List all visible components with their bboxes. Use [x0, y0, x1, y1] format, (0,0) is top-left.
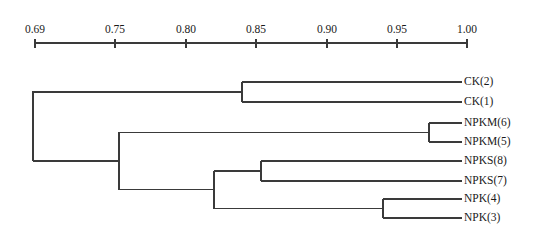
- axis-tick-label: 0.95: [387, 23, 407, 35]
- axis-tick-label: 0.90: [317, 23, 337, 35]
- leaf-label: NPK(3): [464, 211, 501, 224]
- dendrogram-leaves: CK(2)CK(1)NPKM(6)NPKM(5)NPKS(8)NPKS(7)NP…: [242, 75, 511, 224]
- axis-tick-label: 1.00: [457, 23, 477, 35]
- axis-tick-label: 0.75: [105, 23, 125, 35]
- leaf-label: CK(2): [464, 75, 494, 88]
- axis-tick-label: 0.85: [246, 23, 266, 35]
- leaf-label: NPKS(7): [464, 174, 507, 187]
- leaf-label: NPKM(6): [464, 116, 511, 129]
- dendrogram-figure: 0.690.750.800.850.900.951.00 CK(2)CK(1)N…: [0, 0, 539, 245]
- leaf-label: CK(1): [464, 95, 494, 108]
- axis-tick-label: 0.80: [176, 23, 196, 35]
- axis-tick-label: 0.69: [25, 23, 45, 35]
- leaf-label: NPK(4): [464, 192, 501, 205]
- dendrogram-canvas: 0.690.750.800.850.900.951.00 CK(2)CK(1)N…: [0, 0, 539, 245]
- similarity-axis: 0.690.750.800.850.900.951.00: [25, 23, 477, 48]
- leaf-label: NPKS(8): [464, 154, 507, 167]
- leaf-label: NPKM(5): [464, 135, 511, 148]
